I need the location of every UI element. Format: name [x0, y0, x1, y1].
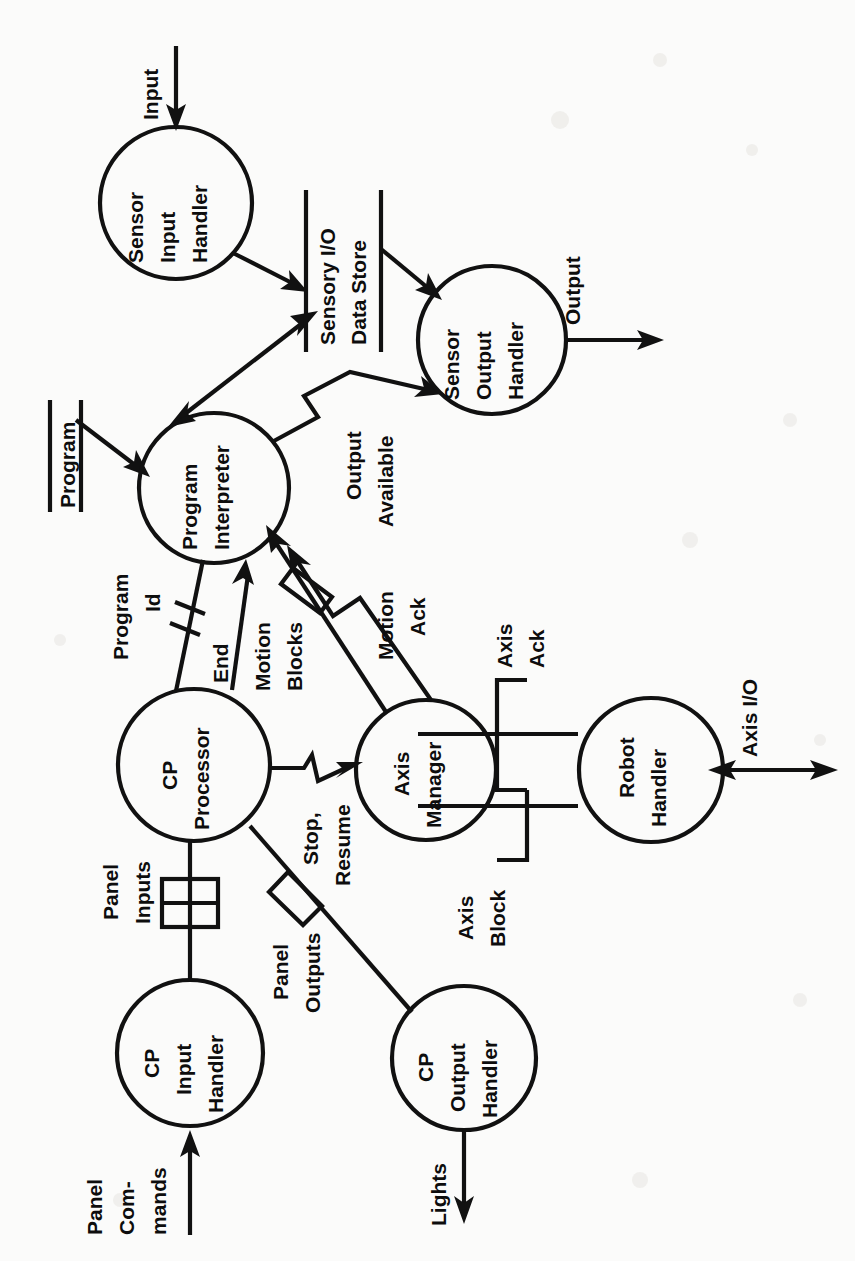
- flow-label-panel-commands-2: mands: [147, 1167, 170, 1235]
- node-label-cp-output-handler-2: Handler: [478, 1040, 501, 1118]
- flow-label-input: Input: [139, 69, 162, 120]
- node-label-cp-input-handler-1: Input: [172, 1044, 195, 1095]
- flow-label-motion-blocks-1: Blocks: [283, 622, 306, 691]
- node-label-sensor-input-handler-2: Handler: [188, 185, 211, 263]
- node-label-sensor-input-handler-0: Sensor: [124, 192, 147, 263]
- node-label-program-interpreter-1: Interpreter: [210, 445, 233, 550]
- flow-label-panel-outputs-1: Outputs: [301, 933, 324, 1013]
- flow-label-panel-outputs-0: Panel: [269, 944, 292, 1000]
- node-label-axis-manager-0: Axis: [390, 752, 413, 796]
- node-label-axis-manager-1: Manager: [422, 742, 445, 828]
- flow-label-stop-resume-0: Stop,: [299, 813, 322, 866]
- flow-label-panel-commands-0: Panel: [83, 1179, 106, 1235]
- node-label-cp-output-handler-0: CP: [414, 1053, 437, 1082]
- flow-label-panel-commands-1: Com-: [115, 1181, 138, 1235]
- node-label-cp-processor-0: CP: [158, 761, 181, 790]
- store-label-line-0: Sensory I/O: [316, 228, 339, 345]
- node-label-program-interpreter-0: Program: [178, 464, 201, 550]
- flow-label-motion-blocks-0: Motion: [251, 622, 274, 691]
- flow-label-output: Output: [561, 256, 584, 325]
- flow-label-axis-ack-0: Axis: [493, 624, 516, 668]
- flow-label-lights: Lights: [427, 1163, 450, 1226]
- flow-label-stop-resume-1: Resume: [331, 804, 354, 886]
- store-label-line-1: Data Store: [347, 240, 370, 345]
- node-label-sensor-output-handler-0: Sensor: [440, 329, 463, 400]
- node-label-cp-output-handler-1: Output: [446, 1043, 469, 1112]
- program-store-label: Program: [56, 422, 79, 508]
- flow-label-program-id-1: Id: [141, 593, 164, 612]
- flow-label-axis-block-1: Block: [486, 889, 509, 947]
- flow-label-axis-ack-1: Ack: [525, 629, 548, 668]
- flow-label-motion-ack-1: Ack: [406, 597, 429, 636]
- node-label-robot-handler-1: Handler: [647, 749, 670, 827]
- node-label-cp-input-handler-2: Handler: [204, 1035, 227, 1113]
- flow-label-end: End: [209, 643, 232, 683]
- node-label-sensor-output-handler-2: Handler: [504, 322, 527, 400]
- flow-label-panel-inputs-0: Panel: [99, 864, 122, 920]
- diagram-canvas: Sensory I/O Data Store Program Sensor In…: [0, 0, 855, 1261]
- flow-label-axis-block-0: Axis: [454, 896, 477, 940]
- node-label-cp-input-handler-0: CP: [140, 1049, 163, 1078]
- flow-label-program-id-0: Program: [109, 574, 132, 660]
- node-label-cp-processor-1: Processor: [190, 727, 213, 830]
- flow-label-axis-io: Axis I/O: [738, 679, 761, 757]
- dataflow-diagram-svg: Sensory I/O Data Store Program Sensor In…: [0, 0, 855, 1261]
- flow-label-panel-inputs-1: Inputs: [131, 861, 154, 924]
- flow-label-output-available-1: Available: [374, 436, 397, 527]
- node-label-sensor-input-handler-1: Input: [156, 212, 179, 263]
- node-label-sensor-output-handler-1: Output: [472, 331, 495, 400]
- flow-label-motion-ack-0: Motion: [374, 591, 397, 660]
- node-label-robot-handler-0: Robot: [615, 737, 638, 798]
- flow-label-output-available-0: Output: [342, 431, 365, 500]
